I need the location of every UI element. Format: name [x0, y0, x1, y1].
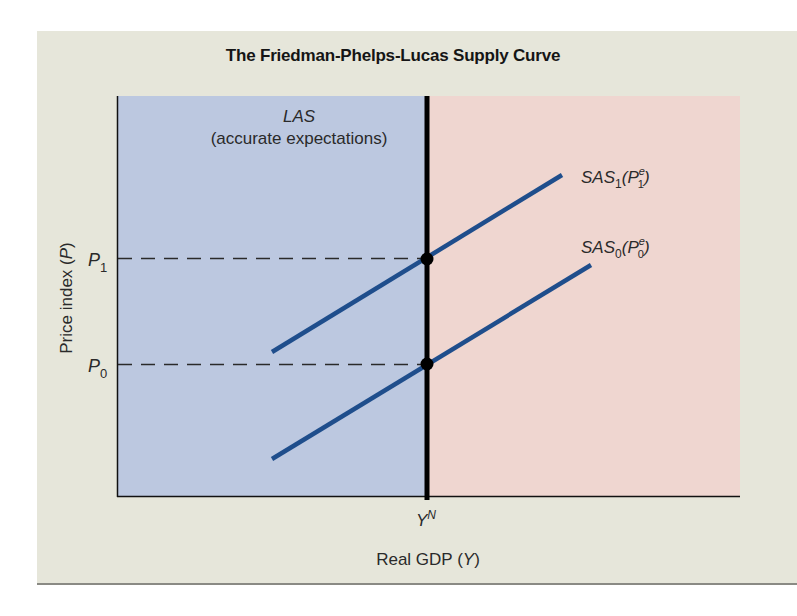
y-axis-title: Price index (P) — [57, 242, 76, 354]
p0-tick-label: P0 — [88, 356, 107, 381]
right-region — [427, 96, 740, 496]
las-label: LAS — [283, 107, 316, 126]
left-region — [117, 96, 427, 496]
equilibrium-point-p1 — [421, 253, 434, 266]
yn-tick-label: YN — [416, 508, 436, 530]
equilibrium-point-p0 — [421, 358, 434, 371]
x-axis-title: Real GDP (Y) — [376, 550, 480, 569]
p1-tick-label: P1 — [88, 250, 107, 275]
las-sublabel: (accurate expectations) — [211, 129, 388, 148]
